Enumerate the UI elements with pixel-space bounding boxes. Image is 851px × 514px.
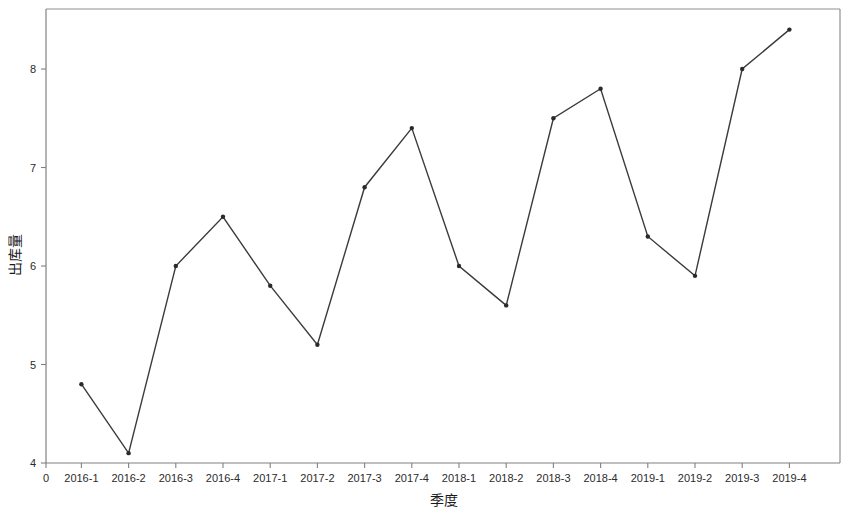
y-axis-tick-label: 7 — [30, 162, 36, 174]
chart-canvas: 45678 2016-12016-22016-32016-42017-12017… — [0, 0, 851, 514]
data-point-marker — [126, 451, 130, 455]
data-point-marker — [362, 185, 366, 189]
y-axis-title: 出库量 — [7, 234, 23, 276]
plot-frame — [46, 9, 840, 463]
x-axis-tick-label: 2016-2 — [111, 472, 145, 484]
x-axis-tick-label: 2016-1 — [64, 472, 98, 484]
y-axis-tick-label: 4 — [30, 457, 36, 469]
data-point-markers — [79, 27, 791, 455]
x-axis-tick-label: 2019-1 — [631, 472, 665, 484]
x-axis-origin-label: 0 — [43, 472, 49, 484]
data-point-marker — [693, 274, 697, 278]
data-series-line — [81, 30, 789, 454]
x-axis-tick-label: 2016-4 — [206, 472, 240, 484]
data-point-marker — [504, 303, 508, 307]
data-point-marker — [268, 284, 272, 288]
data-point-marker — [457, 264, 461, 268]
x-axis-tick-label: 2019-2 — [678, 472, 712, 484]
series-polyline — [81, 30, 789, 454]
y-axis-tick-label: 5 — [30, 359, 36, 371]
data-point-marker — [221, 215, 225, 219]
data-point-marker — [787, 27, 791, 31]
x-axis-title: 季度 — [430, 492, 458, 508]
x-axis-tick-label: 2018-2 — [489, 472, 523, 484]
y-axis-tick-label: 8 — [30, 63, 36, 75]
data-point-marker — [551, 116, 555, 120]
data-point-marker — [315, 343, 319, 347]
data-point-marker — [174, 264, 178, 268]
x-axis-tick-label: 2018-1 — [442, 472, 476, 484]
x-axis-tick-label: 2018-4 — [583, 472, 617, 484]
x-axis-tick-label: 2018-3 — [536, 472, 570, 484]
x-axis-tick-label: 2017-3 — [347, 472, 381, 484]
y-axis-ticks: 45678 — [30, 63, 46, 469]
x-axis-tick-label: 2016-3 — [159, 472, 193, 484]
data-point-marker — [410, 126, 414, 130]
x-axis-tick-label: 2019-3 — [725, 472, 759, 484]
data-point-marker — [646, 234, 650, 238]
x-axis-tick-label: 2019-4 — [772, 472, 806, 484]
y-axis-tick-label: 6 — [30, 260, 36, 272]
x-axis-tick-label: 2017-2 — [300, 472, 334, 484]
x-axis-tick-label: 2017-4 — [395, 472, 429, 484]
data-point-marker — [598, 87, 602, 91]
line-chart-figure: 45678 2016-12016-22016-32016-42017-12017… — [0, 0, 851, 514]
x-axis-tick-label: 2017-1 — [253, 472, 287, 484]
x-axis-ticks: 2016-12016-22016-32016-42017-12017-22017… — [46, 463, 807, 484]
data-point-marker — [740, 67, 744, 71]
data-point-marker — [79, 382, 83, 386]
